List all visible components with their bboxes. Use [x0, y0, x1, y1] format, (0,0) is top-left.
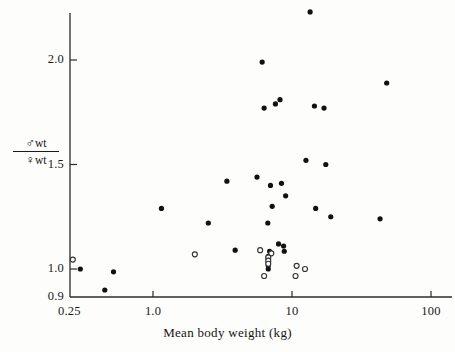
y-axis-title: ♂wt ♀wt	[10, 136, 62, 167]
tick-marks	[70, 60, 431, 297]
female-symbol-icon: ♀	[26, 153, 35, 167]
data-point-filled	[270, 204, 275, 209]
x-tick-label: 10	[262, 304, 322, 319]
data-point-open	[294, 263, 299, 268]
data-point-filled	[206, 220, 211, 225]
data-point-filled	[254, 174, 259, 179]
x-tick-label: 100	[401, 304, 455, 319]
y-axis-numerator-text: wt	[35, 137, 47, 149]
y-tick-label: 2.0	[28, 52, 64, 67]
data-point-open	[258, 248, 263, 253]
data-points-layer	[70, 9, 389, 292]
y-axis-denominator-text: wt	[35, 154, 47, 166]
data-point-open	[192, 252, 197, 257]
data-point-open	[262, 274, 267, 279]
x-axis-title: Mean body weight (kg)	[0, 325, 455, 341]
data-point-filled	[273, 101, 278, 106]
data-point-filled	[279, 181, 284, 186]
data-point-filled	[312, 103, 317, 108]
data-point-filled	[321, 105, 326, 110]
data-point-filled	[159, 206, 164, 211]
data-point-filled	[266, 266, 271, 271]
y-tick-label: 0.9	[28, 289, 64, 304]
male-symbol-icon: ♂	[26, 136, 35, 150]
data-point-filled	[277, 97, 282, 102]
data-point-filled	[102, 287, 107, 292]
y-axis-numerator: ♂wt	[10, 136, 62, 150]
y-tick-label: 1.0	[28, 261, 64, 276]
data-point-filled	[260, 59, 265, 64]
data-point-filled	[111, 269, 116, 274]
x-tick-label: 1.0	[123, 304, 183, 319]
data-point-open	[293, 274, 298, 279]
x-tick-label: 0.25	[39, 304, 99, 319]
data-point-open	[70, 257, 75, 262]
data-point-filled	[78, 266, 83, 271]
y-axis-denominator: ♀wt	[10, 153, 62, 167]
data-point-filled	[323, 162, 328, 167]
data-point-filled	[265, 220, 270, 225]
data-point-filled	[281, 243, 286, 248]
data-point-filled	[384, 80, 389, 85]
data-point-filled	[268, 183, 273, 188]
data-point-filled	[313, 206, 318, 211]
data-point-filled	[276, 241, 281, 246]
data-point-filled	[282, 249, 287, 254]
data-point-filled	[377, 216, 382, 221]
scatter-plot-canvas	[0, 0, 455, 352]
data-point-filled	[224, 179, 229, 184]
data-point-open	[302, 267, 307, 272]
data-point-filled	[303, 158, 308, 163]
data-point-filled	[233, 248, 238, 253]
fraction-rule	[13, 151, 59, 152]
data-point-filled	[308, 9, 313, 14]
data-point-filled	[328, 214, 333, 219]
data-point-filled	[262, 105, 267, 110]
figure-panel: 0.251.0101000.91.01.52.0 ♂wt ♀wt Mean bo…	[0, 0, 455, 352]
data-point-open	[266, 261, 271, 266]
data-point-filled	[283, 193, 288, 198]
axis-lines	[70, 13, 452, 297]
